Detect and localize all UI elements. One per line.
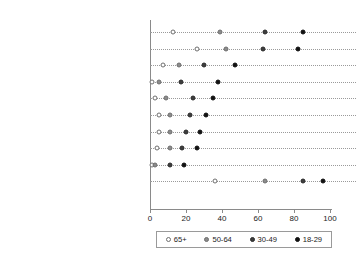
legend-marker-icon [166, 237, 171, 242]
data-point [149, 79, 154, 84]
data-point [218, 30, 223, 35]
row-leader-line [150, 115, 356, 117]
data-point [167, 113, 172, 118]
data-point [171, 30, 176, 35]
data-point [191, 96, 196, 101]
data-point [167, 162, 172, 167]
x-axis-tick [222, 209, 223, 213]
data-point [223, 46, 228, 51]
legend-label: 65+ [174, 236, 187, 244]
data-point [232, 63, 237, 68]
data-point [184, 129, 189, 134]
chart-legend: 65+50-6430-4918-29 [156, 231, 332, 248]
data-point [164, 96, 169, 101]
dot-plot-chart: Send or receive text messagesTake a pict… [0, 0, 362, 263]
x-axis-tick-label: 80 [290, 214, 299, 223]
row-leader-line [150, 132, 356, 134]
x-axis-tick-label: 0 [148, 214, 152, 223]
legend-item[interactable]: 50-64 [204, 236, 231, 244]
data-point [167, 146, 172, 151]
data-point [153, 162, 158, 167]
row-leader-line [150, 98, 356, 100]
x-axis-tick [258, 209, 259, 213]
legend-marker-icon [250, 237, 255, 242]
data-point [261, 46, 266, 51]
data-point [160, 63, 165, 68]
data-point [157, 129, 162, 134]
data-point [180, 146, 185, 151]
data-point [176, 63, 181, 68]
x-axis-tick [330, 209, 331, 213]
data-point [301, 30, 306, 35]
legend-label: 18-29 [303, 236, 322, 244]
legend-item[interactable]: 65+ [166, 236, 187, 244]
data-point [320, 179, 325, 184]
x-axis-tick-label: 100 [323, 214, 336, 223]
data-point [202, 63, 207, 68]
data-point [216, 79, 221, 84]
data-point [295, 46, 300, 51]
data-point [198, 129, 203, 134]
data-point [203, 113, 208, 118]
legend-item[interactable]: 18-29 [295, 236, 322, 244]
x-axis-tick-label: 20 [182, 214, 191, 223]
x-axis-tick-label: 40 [218, 214, 227, 223]
legend-marker-icon [204, 237, 209, 242]
x-axis-tick [294, 209, 295, 213]
legend-item[interactable]: 30-49 [250, 236, 277, 244]
data-point [263, 179, 268, 184]
legend-label: 50-64 [212, 236, 231, 244]
data-point [167, 129, 172, 134]
x-axis-tick-label: 60 [254, 214, 263, 223]
data-point [301, 179, 306, 184]
data-point [211, 96, 216, 101]
data-point [212, 179, 217, 184]
legend-marker-icon [295, 237, 300, 242]
data-point [182, 162, 187, 167]
data-point [187, 113, 192, 118]
data-point [155, 146, 160, 151]
data-point [157, 113, 162, 118]
x-axis-tick [186, 209, 187, 213]
data-point [153, 96, 158, 101]
data-point [178, 79, 183, 84]
data-point [263, 30, 268, 35]
plot-area: Send or receive text messagesTake a pict… [150, 20, 332, 205]
data-point [194, 146, 199, 151]
x-axis-line [150, 209, 332, 210]
x-axis-tick [150, 209, 151, 213]
data-point [157, 79, 162, 84]
legend-label: 30-49 [258, 236, 277, 244]
data-point [194, 46, 199, 51]
row-leader-line [150, 49, 356, 51]
row-leader-line [150, 32, 356, 34]
